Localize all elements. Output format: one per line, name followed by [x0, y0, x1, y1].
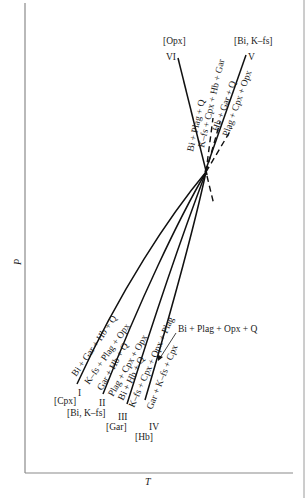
- absent-phase-VI: [Opx]: [163, 36, 186, 46]
- absent-phase-I: [Cpx]: [54, 396, 76, 406]
- roman-label-III: III: [118, 412, 128, 422]
- absent-phase-III: [Gar]: [106, 422, 127, 432]
- p-axis-label: P: [12, 259, 23, 266]
- reaction-IV-lower-assemblage: Bi + Plag + Opx + Q: [178, 324, 258, 334]
- roman-label-VI: VI: [166, 52, 176, 62]
- metastable-extension-VI: [207, 176, 214, 205]
- roman-label-V: V: [248, 52, 255, 62]
- roman-label-II: II: [99, 398, 105, 408]
- pointer-arrowhead: [158, 355, 163, 361]
- petrogenetic-grid-diagram: P T [Opx] [Bi, K–fs] VI V Bi + Plag + Q …: [0, 0, 306, 498]
- absent-phase-V: [Bi, K–fs]: [234, 36, 273, 46]
- absent-phase-IV: [Hb]: [135, 432, 153, 442]
- roman-label-I: I: [78, 388, 81, 398]
- roman-label-IV: IV: [149, 422, 159, 432]
- reaction-curve-I: [77, 172, 206, 384]
- t-axis-label: T: [145, 476, 152, 487]
- absent-phase-II: [Bi, K–fs]: [67, 408, 106, 418]
